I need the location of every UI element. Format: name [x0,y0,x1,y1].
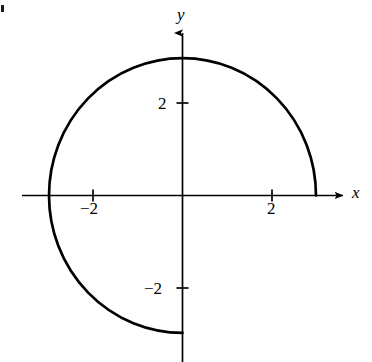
y-tick-label-positive-two: 2 [158,95,167,112]
y-axis-label: y [177,6,185,23]
x-axis-label: x [352,184,360,201]
coordinate-plot [0,0,372,362]
x-tick-label-negative-two: −2 [80,200,98,217]
x-tick-label-positive-two: 2 [267,200,276,217]
figure-canvas: y x −2 2 2 −2 [0,0,372,362]
y-tick-label-negative-two: −2 [144,280,162,297]
